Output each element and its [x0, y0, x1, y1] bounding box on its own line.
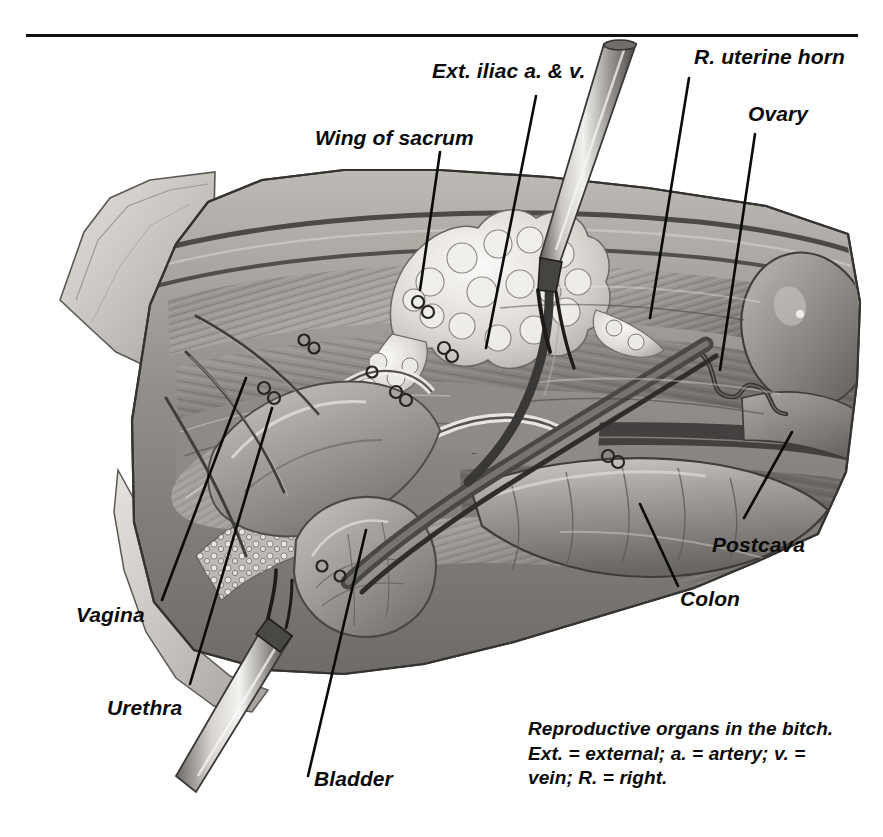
label-r-uterine-horn: R. uterine horn: [694, 46, 845, 68]
label-bladder: Bladder: [314, 768, 393, 790]
label-colon: Colon: [680, 588, 740, 610]
caption-line-3: vein; R. = right.: [528, 766, 833, 791]
figure-page: Ext. iliac a. & v. R. uterine horn Ovary…: [0, 0, 883, 837]
label-postcava: Postcava: [712, 534, 805, 556]
tissue-field: [60, 170, 883, 712]
figure-caption: Reproductive organs in the bitch. Ext. =…: [528, 717, 833, 791]
caption-line-1: Reproductive organs in the bitch.: [528, 717, 833, 742]
label-ext-iliac: Ext. iliac a. & v.: [432, 60, 586, 82]
label-urethra: Urethra: [107, 697, 182, 719]
label-vagina: Vagina: [76, 604, 145, 626]
label-wing-of-sacrum: Wing of sacrum: [315, 127, 474, 149]
label-ovary: Ovary: [748, 103, 808, 125]
caption-line-2: Ext. = external; a. = artery; v. =: [528, 742, 833, 767]
